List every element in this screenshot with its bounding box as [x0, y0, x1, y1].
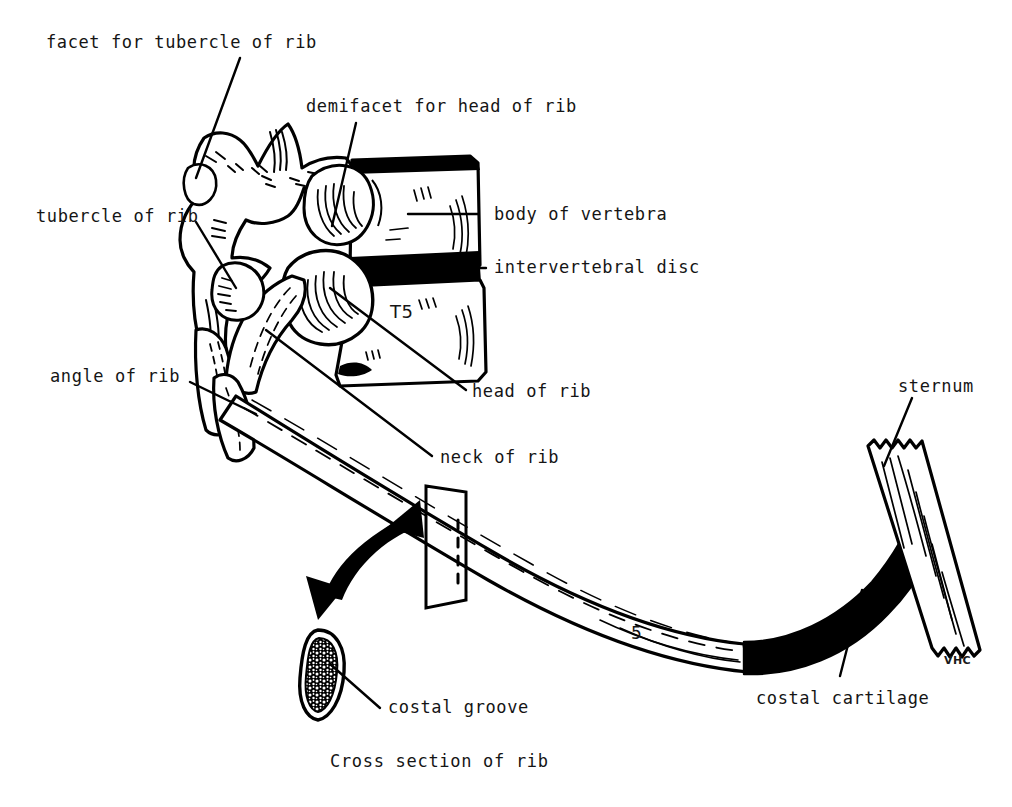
- caption-cross-section-of-rib: Cross section of rib: [330, 753, 549, 770]
- rib-cross-section: [300, 630, 345, 720]
- label-costal-cartilage: costal cartilage: [756, 690, 929, 707]
- label-costal-groove: costal groove: [388, 699, 529, 716]
- anatomical-figure: facet for tubercle of rib demifacet for …: [0, 0, 1012, 807]
- sternum: [868, 440, 980, 657]
- label-head-of-rib: head of rib: [472, 383, 591, 400]
- label-demifacet-for-head-of-rib: demifacet for head of rib: [306, 98, 577, 115]
- figure-illustration: [0, 0, 1012, 807]
- label-facet-for-tubercle-of-rib: facet for tubercle of rib: [46, 34, 317, 51]
- label-sternum: sternum: [898, 378, 974, 395]
- rib-shaft: [220, 396, 748, 672]
- rib-tubercle: [212, 263, 264, 320]
- artist-signature: VHC: [944, 655, 971, 666]
- label-rib-number: 5: [631, 625, 642, 642]
- label-neck-of-rib: neck of rib: [440, 449, 559, 466]
- label-body-of-vertebra: body of vertebra: [494, 206, 667, 223]
- label-angle-of-rib: angle of rib: [50, 368, 180, 385]
- label-vertebra-level: T5: [390, 303, 413, 321]
- label-intervertebral-disc: intervertebral disc: [494, 259, 700, 276]
- curved-arrow: [306, 500, 424, 620]
- label-tubercle-of-rib: tubercle of rib: [36, 208, 199, 225]
- costal-cartilage: [744, 542, 928, 674]
